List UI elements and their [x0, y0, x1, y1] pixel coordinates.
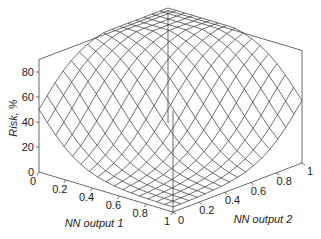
- z-axis-title: Risk, %: [7, 99, 19, 137]
- z-tick-label: 60: [22, 91, 34, 103]
- x-axis-title: NN output 1: [65, 217, 124, 229]
- axis-ticks: 02040608000.20.40.60.8100.20.40.60.81: [22, 66, 313, 227]
- z-tick-label: 80: [22, 66, 34, 78]
- z-tick-label: 20: [22, 141, 34, 153]
- y-tick-label: 0.8: [277, 175, 292, 187]
- z-tick-label: 40: [22, 116, 34, 128]
- y-tick-label: 1: [307, 165, 313, 177]
- x-tick-label: 0: [30, 175, 36, 187]
- x-tick-label: 0.4: [79, 191, 94, 203]
- surface-chart: 02040608000.20.40.60.8100.20.40.60.81 Ri…: [0, 0, 321, 239]
- y-axis-title: NN output 2: [234, 213, 293, 225]
- x-tick-label: 1: [164, 215, 170, 227]
- x-tick-label: 0.2: [52, 183, 67, 195]
- y-tick-label: 0: [178, 214, 184, 226]
- y-tick-label: 0.2: [199, 204, 214, 216]
- x-tick-label: 0.6: [106, 199, 121, 211]
- x-tick-label: 0.8: [133, 207, 148, 219]
- wireframe-surface: [39, 8, 302, 207]
- y-tick-label: 0.4: [225, 194, 240, 206]
- y-tick-label: 0.6: [251, 185, 266, 197]
